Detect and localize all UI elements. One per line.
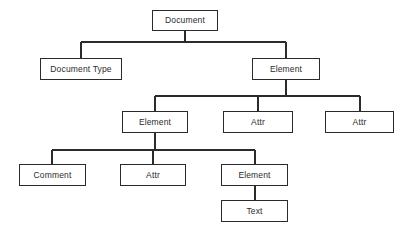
node-label: Attr: [146, 171, 160, 180]
node-label: Element: [139, 118, 171, 127]
node-document-type[interactable]: Document Type: [40, 58, 122, 80]
node-attr-2[interactable]: Attr: [325, 111, 394, 133]
node-document[interactable]: Document: [152, 10, 218, 31]
node-element-2[interactable]: Element: [122, 111, 188, 133]
node-attr-3[interactable]: Attr: [120, 164, 186, 186]
node-label: Attr: [353, 118, 367, 127]
node-comment-1[interactable]: Comment: [19, 164, 86, 186]
node-label: Element: [270, 65, 302, 74]
node-label: Document: [165, 16, 205, 25]
node-label: Attr: [251, 118, 265, 127]
node-element-3[interactable]: Element: [221, 164, 288, 186]
node-attr-1[interactable]: Attr: [223, 111, 293, 133]
node-label: Document Type: [50, 65, 111, 74]
node-label: Comment: [34, 171, 72, 180]
node-element-1[interactable]: Element: [252, 58, 320, 80]
node-label: Element: [238, 171, 270, 180]
node-label: Text: [246, 207, 262, 216]
dom-tree-diagram: DocumentDocument TypeElementElementAttrA…: [0, 0, 408, 239]
node-text-1[interactable]: Text: [221, 200, 288, 222]
